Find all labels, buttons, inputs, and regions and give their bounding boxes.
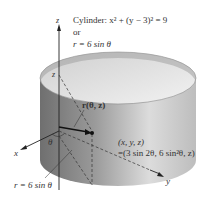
point-label: (x, y, z) xyxy=(118,137,144,147)
cylinder-equation: Cylinder: x² + (y − 3)² = 9 xyxy=(73,15,167,25)
z-height-label: z xyxy=(52,70,55,80)
vector-label: r(θ, z) xyxy=(82,100,105,110)
y-axis-label: y xyxy=(166,176,170,186)
point-coordinates: =(3 sin 2θ, 6 sin²θ, z) xyxy=(118,148,195,158)
polar-equation: r = 6 sin θ xyxy=(73,39,111,49)
z-axis-label: z xyxy=(56,16,59,26)
theta-label: θ xyxy=(48,137,52,147)
cylinder-figure xyxy=(0,0,222,207)
cylinder-diagram: Cylinder: x² + (y − 3)² = 9 or r = 6 sin… xyxy=(0,0,222,207)
x-axis-label: x xyxy=(14,148,18,158)
or-text: or xyxy=(73,27,81,37)
radius-label: r = 6 sin θ xyxy=(14,180,52,190)
